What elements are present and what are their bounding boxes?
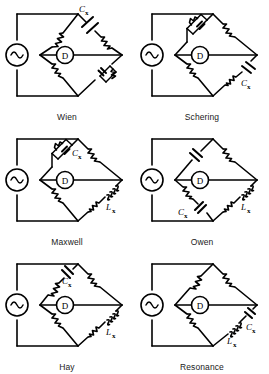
arm-tl-seg-a — [201, 139, 213, 151]
arm-bl-seg-b — [63, 328, 78, 346]
arm-bl-seg-b — [63, 78, 78, 96]
arm-br-seg-c — [78, 337, 88, 346]
detector-label: D — [197, 301, 204, 311]
arm-bl-seg-a — [175, 180, 183, 187]
arm-tr-seg-b — [235, 37, 257, 55]
resistor-bottom-right — [88, 327, 99, 337]
arm-br-seg-b — [236, 72, 242, 77]
arm-tr-seg-b — [95, 31, 101, 37]
ac-source-resonance — [141, 294, 163, 316]
arm-bl-seg-b — [193, 199, 198, 204]
bridge-diagram-hay: D C x L x — [0, 250, 134, 374]
parallel-rc-top-left — [187, 15, 207, 43]
arm-bl-seg-a — [40, 180, 52, 189]
arm-br-seg-c — [213, 85, 225, 96]
bridge-cell-resonance: D C x L x Resonance — [135, 250, 269, 374]
label-lx-subscript: x — [112, 332, 116, 340]
label-cx-subscript: x — [85, 9, 89, 17]
resistor-bottom-left — [52, 314, 63, 328]
arm-tl-seg-a — [201, 264, 213, 276]
label-lx-symbol: L — [105, 202, 111, 212]
arm-tl-seg-c — [40, 295, 48, 305]
bridge-caption-resonance: Resonance — [135, 362, 269, 372]
detector-label: D — [62, 301, 69, 311]
resistor-bottom-right — [223, 202, 234, 212]
ac-source-owen — [141, 169, 163, 191]
bridge-caption-owen: Owen — [135, 237, 269, 247]
inductor-lx-bottom-right — [242, 186, 254, 200]
rc-branch-left — [187, 29, 193, 35]
arm-bl-seg-c — [207, 213, 213, 221]
resistor-bottom-left — [187, 314, 198, 328]
resistor-bottom-left — [52, 189, 63, 203]
rc-branch-right — [201, 15, 207, 21]
detector-label: D — [62, 51, 69, 61]
label-lx-symbol: L — [105, 327, 111, 337]
arm-tr-seg-a — [213, 264, 223, 274]
arm-br-seg-b — [99, 322, 105, 328]
label-cx-subscript: x — [252, 327, 256, 335]
resistor-top-right — [101, 37, 112, 49]
bridge-cell-maxwell: D C x — [0, 125, 134, 249]
arm-tl-seg-b — [40, 47, 52, 55]
detector-resonance: D — [192, 297, 209, 314]
arm-bl-seg-a — [175, 55, 187, 64]
rc-branch-bottom — [100, 76, 106, 82]
capacitor-top-left — [190, 149, 202, 161]
detector-label: D — [197, 51, 204, 61]
resistor-bottom-left — [52, 64, 63, 78]
arm-tr-seg-b — [100, 287, 122, 305]
bridge-diagram-wien: D C x — [0, 0, 134, 124]
parallel-rc-bottom-right — [99, 66, 117, 82]
arm-br-seg-b — [78, 80, 95, 96]
arm-bl-seg-a — [175, 305, 187, 314]
arm-br-seg-b — [99, 197, 105, 203]
bridge-cell-hay: D C x L x — [0, 250, 134, 374]
label-cx-subscript: x — [68, 281, 72, 289]
label-cx-subscript: x — [247, 83, 251, 91]
arm-br-seg-b — [234, 197, 240, 203]
ac-source-wien — [6, 44, 28, 66]
arm-tl-seg-b — [175, 42, 187, 55]
resistor-top-right — [88, 274, 100, 287]
arm-tl-seg-b — [175, 288, 190, 305]
arm-br-seg-c — [78, 212, 88, 221]
arm-br-seg-c — [213, 212, 223, 221]
bridge-diagram-owen: D C x L — [135, 125, 269, 249]
arm-tr-seg-a — [78, 139, 88, 149]
resistor-top-right — [223, 274, 235, 287]
resistor-top-right — [88, 149, 100, 162]
detector-label: D — [197, 176, 204, 186]
arm-tr-seg-a — [213, 139, 223, 149]
label-cx-subscript: x — [184, 212, 188, 220]
arm-tr-seg-c — [112, 48, 122, 55]
arm-br-seg-a — [112, 55, 122, 64]
detector-owen: D — [192, 172, 209, 189]
resistor-bottom-left — [187, 64, 198, 78]
ac-source-schering — [141, 44, 163, 66]
bridge-cell-wien: D C x — [0, 0, 134, 124]
detector-wien: D — [57, 47, 74, 64]
label-lx-subscript: x — [233, 341, 237, 349]
arm-tr-seg-a — [213, 14, 223, 24]
label-cx-subscript: x — [78, 153, 82, 161]
arm-tl-seg-a — [72, 139, 78, 145]
arm-br-seg-c — [213, 334, 228, 346]
bridge-figure-sheet: D C x — [0, 0, 269, 374]
resistor-top-left — [48, 283, 60, 296]
bridge-caption-maxwell: Maxwell — [0, 237, 134, 247]
arm-bl-seg-b — [198, 328, 213, 346]
arm-tl-seg-b — [40, 167, 52, 180]
arm-tr-seg-b — [100, 162, 122, 180]
bridge-caption-hay: Hay — [0, 362, 134, 372]
arm-tr-seg-a — [78, 264, 88, 274]
inductor-lx-bottom-right — [230, 323, 242, 337]
detector-label: D — [62, 176, 69, 186]
detector-hay: D — [57, 297, 74, 314]
ac-source-maxwell — [6, 169, 28, 191]
bridge-cell-schering: D — [135, 0, 269, 124]
inductor-lx-bottom-right — [107, 311, 119, 325]
resistor-bottom-right — [225, 76, 236, 86]
parallel-rc-cx-top-left — [52, 140, 72, 168]
label-lx-subscript: x — [112, 207, 116, 215]
